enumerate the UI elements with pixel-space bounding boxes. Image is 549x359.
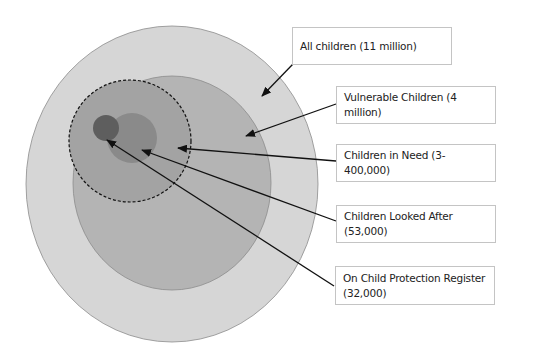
- label-all-children: All children (11 million): [292, 27, 452, 65]
- label-child-protection-text: On Child Protection Register (32,000): [343, 271, 487, 301]
- label-vulnerable-children-text: Vulnerable Children (4 million): [344, 90, 488, 120]
- label-children-in-need-text: Children in Need (3-400,000): [344, 148, 488, 178]
- label-child-protection: On Child Protection Register (32,000): [335, 266, 495, 305]
- child-protection-circle: [93, 115, 119, 141]
- label-children-looked-after-text: Children Looked After (53,000): [344, 209, 488, 239]
- label-children-in-need: Children in Need (3-400,000): [336, 144, 496, 182]
- label-vulnerable-children: Vulnerable Children (4 million): [336, 86, 496, 124]
- label-all-children-text: All children (11 million): [300, 39, 417, 54]
- label-children-looked-after: Children Looked After (53,000): [336, 205, 496, 243]
